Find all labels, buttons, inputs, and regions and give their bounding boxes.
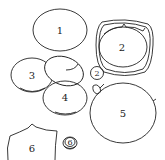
part-4: 4 bbox=[43, 81, 87, 115]
part-2-label: 2 bbox=[119, 42, 125, 53]
part-6-small-label: 6 bbox=[67, 138, 72, 147]
parts-diagram: 1 2 3 2 4 5 6 bbox=[0, 0, 165, 160]
part-5-label: 5 bbox=[120, 108, 126, 119]
part-6-small: 6 bbox=[63, 137, 77, 149]
part-2-small: 2 bbox=[91, 67, 104, 80]
part-2-small-label: 2 bbox=[94, 69, 99, 78]
part-3-label: 3 bbox=[29, 70, 35, 81]
part-6-shield bbox=[7, 124, 57, 160]
part-1-label: 1 bbox=[57, 25, 63, 36]
part-6: 6 bbox=[7, 124, 57, 160]
part-5: 5 bbox=[90, 83, 156, 143]
leaf-icon bbox=[93, 85, 101, 94]
part-4-label: 4 bbox=[62, 92, 68, 103]
part-3-lid bbox=[40, 51, 87, 91]
part-1: 1 bbox=[33, 9, 87, 51]
part-2: 2 bbox=[96, 20, 153, 76]
part-6-label: 6 bbox=[29, 143, 35, 154]
part-5-notch bbox=[153, 99, 156, 101]
part-5-stem bbox=[100, 84, 104, 88]
